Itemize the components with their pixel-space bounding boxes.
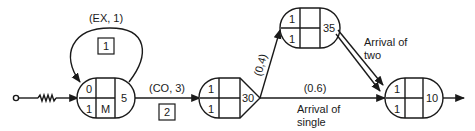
node-4: 1 1 10 xyxy=(385,78,443,118)
arrival-single-line2: single xyxy=(297,116,326,128)
node-4-bottom-left: 1 xyxy=(394,103,400,115)
co-box-label: 2 xyxy=(164,106,170,118)
edge-branch-up: (0,4) xyxy=(251,30,280,98)
node-1-bottom-mid: M xyxy=(101,103,110,115)
node-3: 1 1 35 xyxy=(280,8,340,48)
arrival-single-line1: Arrival of xyxy=(297,103,341,115)
edge-co: (CO, 3) 2 xyxy=(135,82,200,120)
branch-straight-label: (0.6) xyxy=(304,82,327,94)
node-3-right: 35 xyxy=(323,22,335,34)
arrival-two-line1: Arrival of xyxy=(364,36,408,48)
loop-label: (EX, 1) xyxy=(89,12,123,24)
node-4-top-left: 1 xyxy=(394,83,400,95)
source-input xyxy=(13,95,78,101)
zigzag-icon xyxy=(38,95,56,101)
co-label: (CO, 3) xyxy=(149,82,185,94)
node-2-right: 30 xyxy=(242,92,254,104)
node-3-bottom-left: 1 xyxy=(289,33,295,45)
network-diagram: (EX, 1) 1 0 1 M 5 (CO, 3) 2 1 1 30 (0,4) xyxy=(0,0,475,131)
node-2: 1 1 30 xyxy=(199,78,260,118)
node-2-bottom-left: 1 xyxy=(208,103,214,115)
node-3-top-left: 1 xyxy=(289,13,295,25)
node-1-bottom-left: 1 xyxy=(86,103,92,115)
edge-branch-straight: (0.6) Arrival of single xyxy=(260,82,385,128)
node-2-top-left: 1 xyxy=(208,83,214,95)
node-1-right: 5 xyxy=(121,92,127,104)
node-1-top-left: 0 xyxy=(86,83,92,95)
node-4-right: 10 xyxy=(426,92,438,104)
arrival-two-line2: two xyxy=(364,49,381,61)
branch-up-label: (0,4) xyxy=(251,52,269,77)
node-1: 0 1 M 5 xyxy=(77,78,135,118)
source-circle-icon xyxy=(13,95,18,100)
loop-box-label: 1 xyxy=(103,40,109,52)
edge-loop-exit: (EX, 1) 1 xyxy=(70,12,142,82)
